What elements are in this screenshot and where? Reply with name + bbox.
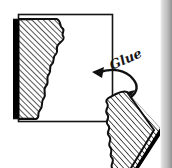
molding-piece-left — [12, 16, 68, 122]
molding-left-black-edge — [13, 20, 20, 118]
illustration-canvas: Glue — [0, 0, 172, 168]
glue-arrow-head — [92, 67, 104, 78]
figure-svg: Glue — [0, 0, 172, 168]
page-edge-strip — [160, 0, 172, 168]
